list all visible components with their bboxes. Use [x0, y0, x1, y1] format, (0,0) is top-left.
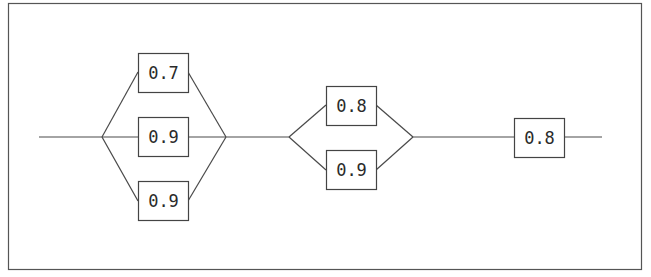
reliability-label: 0.7: [148, 63, 179, 83]
reliability-label: 0.9: [148, 127, 179, 147]
component-block: 0.7: [139, 54, 189, 93]
reliability-label: 0.8: [524, 128, 555, 148]
component-block: 0.9: [139, 182, 189, 221]
reliability-label: 0.9: [148, 191, 179, 211]
reliability-diagram: 0.7 0.9 0.9 0.8 0.9 0.8: [0, 0, 651, 277]
component-block: 0.8: [327, 87, 377, 126]
component-block: 0.8: [515, 119, 565, 158]
component-block: 0.9: [327, 151, 377, 190]
reliability-label: 0.9: [336, 160, 367, 180]
reliability-label: 0.8: [336, 96, 367, 116]
component-block: 0.9: [139, 118, 189, 157]
